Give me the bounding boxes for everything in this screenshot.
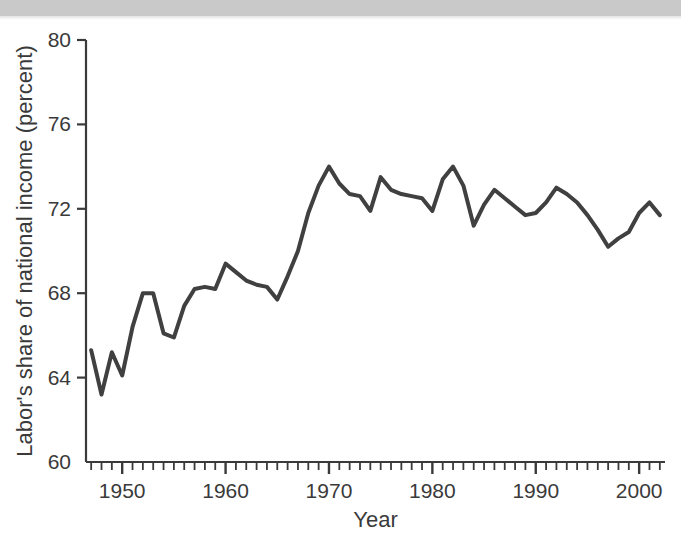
- chart-figure: 606468727680195019601970198019902000 Yea…: [0, 0, 681, 543]
- x-axis-title: Year: [353, 507, 397, 532]
- chart-series: [91, 167, 660, 395]
- x-tick-label: 1950: [99, 479, 146, 502]
- x-tick-label: 2000: [616, 479, 663, 502]
- x-tick-label: 1990: [512, 479, 559, 502]
- y-tick-label: 76: [48, 112, 71, 135]
- chart-ticks: [77, 40, 660, 474]
- chart-tick-labels: 606468727680195019601970198019902000: [48, 28, 663, 502]
- y-tick-label: 64: [48, 366, 72, 389]
- y-tick-label: 68: [48, 281, 71, 304]
- series-line-0: [91, 167, 660, 395]
- x-tick-label: 1980: [409, 479, 456, 502]
- line-chart-plot: 606468727680195019601970198019902000 Yea…: [0, 0, 681, 543]
- x-tick-label: 1970: [306, 479, 353, 502]
- y-tick-label: 60: [48, 450, 71, 473]
- y-tick-label: 80: [48, 28, 71, 51]
- y-axis-title: Labor's share of national income (percen…: [12, 45, 37, 456]
- y-tick-label: 72: [48, 197, 71, 220]
- x-tick-label: 1960: [202, 479, 249, 502]
- chart-axes: [86, 40, 665, 462]
